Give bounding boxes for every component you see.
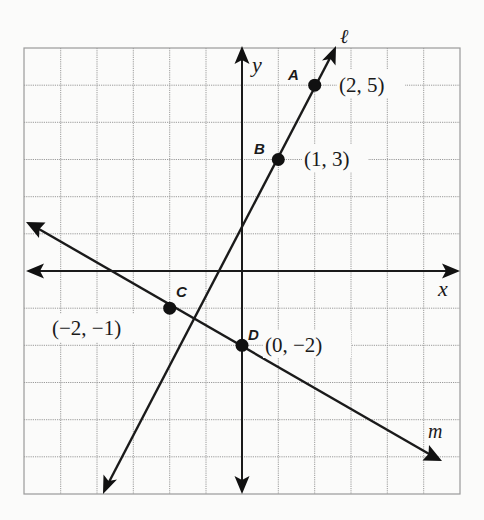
point-a-coords: (2, 5) [339,73,385,97]
point-b-coords: (1, 3) [304,147,350,171]
coordinate-plane-figure: A B C D (2, 5) (1, 3) (−2, −1) (0, −2) y… [0,0,484,520]
y-axis-label: y [250,52,262,77]
point-d-dot [236,339,249,352]
point-a-dot [308,79,321,92]
point-d-name: D [248,326,259,343]
point-d-coords: (0, −2) [265,333,322,357]
line-l-down-arrow-icon [103,475,117,495]
point-c-name: C [176,283,188,300]
point-c-coords: (−2, −1) [52,316,121,340]
point-c-dot [163,302,176,315]
line-l-up-arrow-icon [322,46,336,66]
point-b-name: B [254,140,265,157]
line-m-label: m [428,420,442,442]
x-axis-label: x [437,276,448,301]
point-b-dot [272,153,285,166]
point-a-name: A [287,66,299,83]
line-l-label: ℓ [340,25,349,47]
